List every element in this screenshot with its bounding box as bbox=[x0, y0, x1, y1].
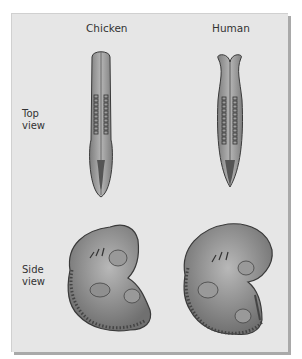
human-side-view-embryo bbox=[184, 224, 272, 335]
human-top-view-embryo bbox=[218, 55, 243, 187]
chicken-side-view-embryo bbox=[68, 225, 151, 331]
chicken-top-view-embryo bbox=[90, 52, 113, 197]
embryo-illustrations bbox=[0, 0, 302, 359]
